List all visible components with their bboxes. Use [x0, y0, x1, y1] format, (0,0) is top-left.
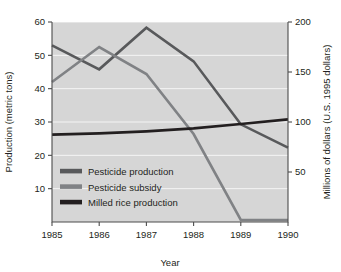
legend-swatch: [60, 200, 82, 205]
y2-tick-label: 50: [295, 166, 306, 177]
chart-legend: Pesticide productionPesticide subsidyMil…: [60, 166, 178, 208]
line-chart: 1020304050605010015020019851986198719881…: [0, 0, 341, 272]
legend-swatch: [60, 169, 82, 174]
x-tick-label: 1985: [41, 229, 62, 240]
x-tick-label: 1988: [183, 229, 204, 240]
chart-container: 1020304050605010015020019851986198719881…: [0, 0, 341, 272]
y-tick-label: 30: [34, 116, 45, 127]
x-tick-label: 1990: [277, 229, 298, 240]
y-tick-label: 60: [34, 16, 45, 27]
legend-swatch: [60, 184, 82, 189]
y-tick-label: 50: [34, 50, 45, 61]
legend-label: Pesticide production: [88, 166, 174, 177]
y2-tick-label: 100: [295, 116, 311, 127]
y2-tick-label: 150: [295, 66, 311, 77]
x-tick-label: 1987: [136, 229, 157, 240]
x-tick-label: 1989: [230, 229, 251, 240]
secondary-y-axis-label: Millions of dollars (U.S. 1995 dollars): [321, 45, 332, 200]
y-tick-label: 40: [34, 83, 45, 94]
y2-tick-label: 200: [295, 16, 311, 27]
x-tick-label: 1986: [89, 229, 110, 240]
x-axis-label: Year: [160, 257, 179, 268]
y-axis-label: Production (metric tons): [3, 72, 14, 173]
y-tick-label: 20: [34, 150, 45, 161]
legend-label: Pesticide subsidy: [88, 182, 162, 193]
legend-label: Milled rice production: [88, 197, 178, 208]
y-tick-label: 10: [34, 183, 45, 194]
